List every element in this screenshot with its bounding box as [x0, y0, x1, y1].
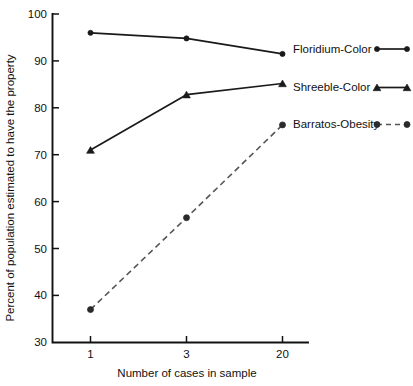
y-axis-title: Percent of population estimated to have … [4, 54, 16, 321]
series-shreeble-color [87, 80, 287, 153]
y-tick-label-70: 70 [34, 149, 47, 161]
legend-label-shreeble-color: Shreeble-Color [293, 81, 371, 93]
chart-plot-area: 100 90 80 70 60 50 40 30 1 3 20 Number o… [0, 0, 413, 386]
legend-label-floridium-color: Floridium-Color [293, 43, 372, 55]
legend-item-floridium-color[interactable]: Floridium-Color [293, 43, 410, 55]
x-tick-label-3: 3 [183, 348, 189, 360]
y-tick-label-40: 40 [34, 289, 47, 301]
legend-item-shreeble-color[interactable]: Shreeble-Color [293, 81, 411, 93]
chart-figure: 100 90 80 70 60 50 40 30 1 3 20 Number o… [0, 0, 413, 386]
axis-lines [53, 14, 309, 343]
y-tick-label-80: 80 [34, 102, 47, 114]
data-point-floridium-1 [88, 30, 93, 35]
legend-marker-circle-icon-barratos-end [404, 122, 410, 128]
x-tick-label-1: 1 [87, 348, 93, 360]
legend-marker-dot-icon-floridium [374, 46, 379, 51]
data-point-barratos-1 [88, 307, 94, 313]
x-axis-title: Number of cases in sample [117, 367, 256, 379]
axis-frame [53, 14, 309, 343]
data-point-floridium-3 [184, 36, 189, 41]
legend-label-barratos-obesity: Barratos-Obesity [293, 118, 380, 130]
series-floridium-color [88, 30, 285, 56]
legend-marker-circle-icon-barratos [374, 122, 380, 128]
legend-marker-dot-icon-floridium-end [404, 46, 409, 51]
legend-item-barratos-obesity[interactable]: Barratos-Obesity [293, 118, 410, 130]
data-point-floridium-20 [280, 51, 285, 56]
y-tick-label-90: 90 [34, 55, 47, 67]
x-tick-label-20: 20 [276, 348, 289, 360]
series-barratos-obesity [88, 122, 286, 313]
y-tick-label-50: 50 [34, 243, 47, 255]
y-axis-ticks [53, 14, 60, 295]
y-axis-tick-labels: 100 90 80 70 60 50 40 30 [28, 8, 47, 348]
chart-legend: Floridium-Color Shreeble-Color Barratos-… [293, 43, 411, 130]
data-point-barratos-20 [280, 122, 286, 128]
y-tick-label-100: 100 [28, 8, 47, 20]
data-point-barratos-3 [184, 215, 190, 221]
y-tick-label-30: 30 [34, 336, 47, 348]
x-axis-ticks [91, 336, 283, 343]
x-axis-tick-labels: 1 3 20 [87, 348, 289, 360]
y-tick-label-60: 60 [34, 196, 47, 208]
